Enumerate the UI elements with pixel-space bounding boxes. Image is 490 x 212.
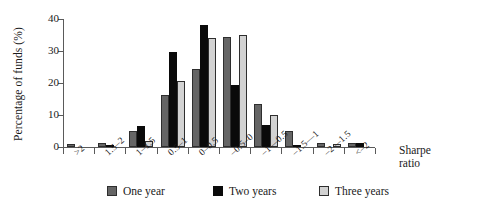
bar — [239, 35, 247, 147]
bar — [208, 38, 216, 147]
legend-label: Three years — [335, 185, 389, 197]
x-tick-mark — [250, 148, 251, 154]
x-tick-mark — [63, 148, 64, 154]
bar-group — [285, 19, 309, 147]
legend-label: Two years — [229, 185, 276, 197]
bar — [169, 52, 177, 147]
y-tick-30: 30 — [63, 51, 64, 52]
x-tick-mark — [375, 148, 376, 154]
x-tick-mark — [219, 148, 220, 154]
x-tick-mark — [313, 148, 314, 154]
y-tick-label: 30 — [33, 44, 59, 56]
bar — [254, 104, 262, 147]
bar — [200, 25, 208, 147]
y-tick-label: 20 — [33, 76, 59, 88]
x-tick-mark — [94, 148, 95, 154]
plot-area: 010203040 — [63, 19, 375, 148]
sharpe-ratio-bar-chart: Percentage of funds (%) 010203040 >21.5–… — [0, 0, 490, 212]
y-tick-label: 0 — [33, 140, 59, 152]
bar — [348, 143, 356, 147]
x-tick-mark — [125, 148, 126, 154]
bar-group — [254, 19, 278, 147]
bar-group — [161, 19, 185, 147]
bar — [317, 143, 325, 147]
bar-group — [223, 19, 247, 147]
legend-label: One year — [123, 185, 165, 197]
y-tick-20: 20 — [63, 83, 64, 84]
y-tick-label: 40 — [33, 12, 59, 24]
x-axis-title: Sharpe ratio — [399, 144, 455, 169]
y-tick-40: 40 — [63, 19, 64, 20]
bar-group — [317, 19, 341, 147]
x-tick-mark — [157, 148, 158, 154]
bar-group — [348, 19, 372, 147]
chart-legend: One yearTwo yearsThree years — [107, 184, 407, 200]
bar — [231, 85, 239, 147]
legend-item[interactable]: Three years — [319, 184, 389, 198]
bar — [161, 95, 169, 147]
x-tick-mark — [188, 148, 189, 154]
legend-swatch-icon — [213, 186, 223, 196]
x-axis-title-line2: ratio — [399, 157, 420, 169]
legend-item[interactable]: Two years — [213, 184, 276, 198]
x-tick-mark — [344, 148, 345, 154]
bar-group — [98, 19, 122, 147]
bar — [223, 37, 231, 147]
y-axis-title: Percentage of funds (%) — [12, 4, 24, 164]
x-tick-mark — [281, 148, 282, 154]
y-tick-10: 10 — [63, 115, 64, 116]
legend-swatch-icon — [319, 186, 329, 196]
bar-group — [192, 19, 216, 147]
bar-group — [67, 19, 91, 147]
bar — [129, 131, 137, 147]
bar-group — [129, 19, 153, 147]
legend-swatch-icon — [107, 186, 117, 196]
y-tick-label: 10 — [33, 108, 59, 120]
x-axis-title-line1: Sharpe — [399, 144, 431, 156]
bar — [192, 69, 200, 147]
legend-item[interactable]: One year — [107, 184, 165, 198]
